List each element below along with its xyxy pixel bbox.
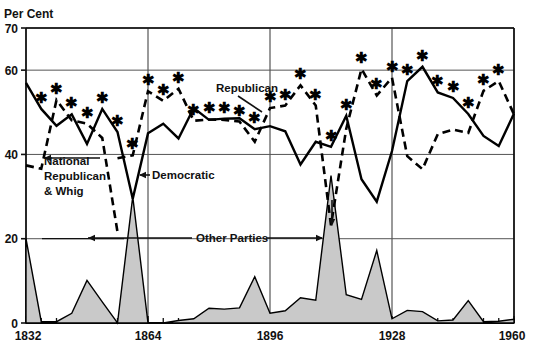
election-vote-share-chart: ✱✱✱✱✱✱✱✱✱✱✱✱✱✱✱✱✱✱✱✱✱✱✱✱✱✱✱✱✱✱✱020406070… bbox=[0, 0, 535, 362]
winner-star-1912: ✱ bbox=[325, 128, 338, 144]
winner-star-1888: ✱ bbox=[233, 103, 246, 119]
democratic-arrow-head bbox=[139, 172, 146, 178]
winner-star-1840: ✱ bbox=[50, 81, 63, 97]
winner-star-1944: ✱ bbox=[447, 79, 460, 95]
y-tick-label-70: 70 bbox=[5, 22, 19, 36]
x-tick-label-1928: 1928 bbox=[379, 329, 406, 343]
winner-star-1868: ✱ bbox=[157, 82, 170, 98]
series-label-democratic: Democratic bbox=[152, 169, 215, 181]
x-tick-label-1896: 1896 bbox=[257, 329, 284, 343]
winner-star-1920: ✱ bbox=[355, 50, 368, 66]
winner-star-1924: ✱ bbox=[370, 76, 383, 92]
x-tick-label-1960: 1960 bbox=[499, 329, 526, 343]
winner-star-1928: ✱ bbox=[386, 59, 399, 75]
winner-star-1900: ✱ bbox=[279, 87, 292, 103]
other-parties-arrow-head-left bbox=[88, 235, 95, 241]
winner-star-1956: ✱ bbox=[492, 62, 505, 78]
winner-star-1880: ✱ bbox=[203, 100, 216, 116]
winner-star-1884: ✱ bbox=[218, 100, 231, 116]
winner-star-1940: ✱ bbox=[431, 73, 444, 89]
series-label-whig-line3: & Whig bbox=[44, 185, 84, 197]
winner-star-1952: ✱ bbox=[477, 72, 490, 88]
winner-star-1864: ✱ bbox=[142, 72, 155, 88]
winner-star-1872: ✱ bbox=[172, 70, 185, 86]
winner-star-1848: ✱ bbox=[81, 105, 94, 121]
y-axis-unit-label: Per Cent bbox=[4, 7, 53, 21]
winner-star-1936: ✱ bbox=[416, 48, 429, 64]
winner-star-1876: ✱ bbox=[187, 102, 200, 118]
winner-star-1916: ✱ bbox=[340, 97, 353, 113]
x-tick-label-1832: 1832 bbox=[15, 329, 42, 343]
winner-star-1932: ✱ bbox=[401, 62, 414, 78]
y-tick-label-60: 60 bbox=[5, 64, 19, 78]
winner-star-1852: ✱ bbox=[96, 90, 109, 106]
winner-star-1860: ✱ bbox=[126, 136, 139, 152]
series-label-republican: Republican bbox=[216, 82, 278, 94]
winner-star-1836: ✱ bbox=[35, 90, 48, 106]
other-parties-arrow-head-right bbox=[316, 235, 323, 241]
winner-star-1948: ✱ bbox=[462, 95, 475, 111]
x-tick-label-1864: 1864 bbox=[135, 329, 162, 343]
winner-star-1892: ✱ bbox=[248, 110, 261, 126]
series-label-whig-line2: Republican bbox=[44, 170, 106, 182]
winner-star-1904: ✱ bbox=[294, 66, 307, 82]
winner-star-1908: ✱ bbox=[309, 87, 322, 103]
y-tick-label-40: 40 bbox=[5, 148, 19, 162]
chart-svg: ✱✱✱✱✱✱✱✱✱✱✱✱✱✱✱✱✱✱✱✱✱✱✱✱✱✱✱✱✱✱✱020406070… bbox=[0, 0, 535, 362]
y-tick-label-20: 20 bbox=[5, 232, 19, 246]
series-label-other-parties: Other Parties bbox=[196, 232, 268, 244]
winner-star-1844: ✱ bbox=[65, 95, 78, 111]
winner-star-1856: ✱ bbox=[111, 113, 124, 129]
